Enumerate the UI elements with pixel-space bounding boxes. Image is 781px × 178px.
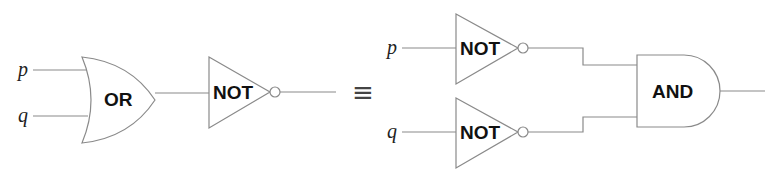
right-circuit: p q NOT NOT AND xyxy=(385,14,765,168)
input-label-q-right: q xyxy=(387,120,397,143)
not-gate-label: NOT xyxy=(213,82,254,103)
not-q-bubble xyxy=(518,127,528,137)
left-circuit: p q OR NOT xyxy=(16,57,336,143)
not-gate-p-label: NOT xyxy=(460,38,501,59)
input-label-p-left: p xyxy=(16,58,28,81)
logic-diagram: p q OR NOT ≡ p q NOT NOT AND xyxy=(0,0,781,178)
and-gate-label: AND xyxy=(652,81,693,102)
or-gate-label: OR xyxy=(104,89,133,110)
not-gate-q-label: NOT xyxy=(460,122,501,143)
not-p-bubble xyxy=(518,43,528,53)
wire-notq-to-and xyxy=(528,117,637,132)
equivalence-symbol: ≡ xyxy=(352,77,374,107)
wire-notp-to-and xyxy=(528,48,637,65)
input-label-p-right: p xyxy=(385,36,397,59)
not-bubble xyxy=(270,87,280,97)
input-label-q-left: q xyxy=(18,104,28,127)
